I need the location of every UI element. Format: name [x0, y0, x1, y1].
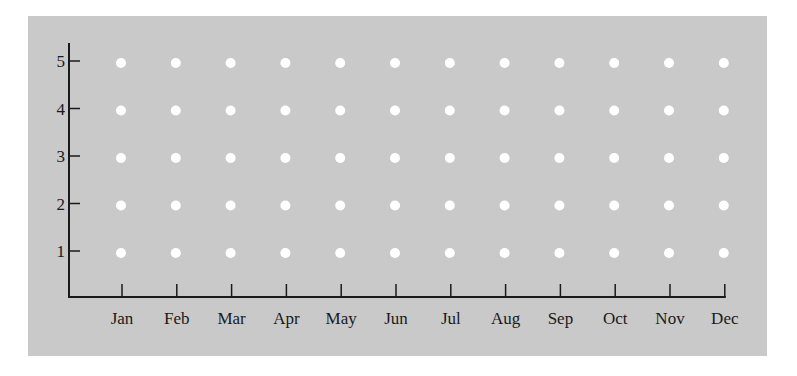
data-point — [280, 106, 290, 116]
y-tick-label: 5 — [57, 52, 66, 71]
data-point — [171, 201, 181, 211]
data-point — [719, 201, 729, 211]
x-tick-label: Mar — [217, 309, 246, 328]
x-tick-label: Feb — [164, 309, 190, 328]
chart-panel: 12345JanFebMarAprMayJunJulAugSepOctNovDe… — [28, 16, 767, 356]
data-point — [390, 201, 400, 211]
data-point — [390, 248, 400, 258]
y-tick-label: 1 — [57, 242, 66, 261]
data-point — [280, 153, 290, 163]
x-tick-label: May — [326, 309, 358, 328]
data-point — [664, 201, 674, 211]
x-tick-label: Dec — [711, 309, 739, 328]
data-point — [226, 58, 236, 68]
data-point — [664, 58, 674, 68]
data-point — [554, 153, 564, 163]
data-point — [445, 153, 455, 163]
data-point — [445, 58, 455, 68]
data-point — [719, 106, 729, 116]
data-point — [609, 201, 619, 211]
data-point — [280, 201, 290, 211]
data-point — [116, 58, 126, 68]
data-point — [445, 248, 455, 258]
data-point — [280, 58, 290, 68]
x-tick-label: Sep — [548, 309, 574, 328]
x-tick-label: Oct — [603, 309, 628, 328]
data-point — [719, 58, 729, 68]
data-point — [664, 106, 674, 116]
data-point — [609, 248, 619, 258]
x-tick-label: Aug — [491, 309, 521, 328]
x-tick-label: Apr — [273, 309, 300, 328]
data-point — [554, 58, 564, 68]
data-point — [500, 58, 510, 68]
data-point — [554, 106, 564, 116]
data-point — [226, 153, 236, 163]
data-point — [116, 153, 126, 163]
data-point — [335, 106, 345, 116]
data-point — [171, 248, 181, 258]
data-point — [664, 153, 674, 163]
data-point — [554, 201, 564, 211]
y-tick-label: 2 — [57, 195, 66, 214]
data-point — [116, 201, 126, 211]
data-point — [335, 153, 345, 163]
data-point — [280, 248, 290, 258]
data-point — [171, 58, 181, 68]
data-point — [390, 58, 400, 68]
data-point — [226, 106, 236, 116]
data-point — [609, 106, 619, 116]
data-point — [445, 106, 455, 116]
data-point — [226, 201, 236, 211]
data-point — [445, 201, 455, 211]
data-point — [226, 248, 236, 258]
data-point — [609, 153, 619, 163]
data-point — [390, 153, 400, 163]
data-point — [664, 248, 674, 258]
data-point — [116, 248, 126, 258]
dot-grid-chart: 12345JanFebMarAprMayJunJulAugSepOctNovDe… — [28, 16, 767, 356]
data-point — [171, 106, 181, 116]
data-point — [500, 106, 510, 116]
data-point — [554, 248, 564, 258]
data-point — [390, 106, 400, 116]
x-tick-label: Jul — [441, 309, 461, 328]
x-tick-label: Jun — [384, 309, 408, 328]
y-tick-label: 3 — [57, 147, 66, 166]
data-point — [500, 201, 510, 211]
y-tick-label: 4 — [57, 100, 66, 119]
data-point — [609, 58, 619, 68]
data-point — [719, 248, 729, 258]
data-point — [500, 248, 510, 258]
data-point — [335, 248, 345, 258]
data-point — [116, 106, 126, 116]
data-point — [335, 58, 345, 68]
data-point — [171, 153, 181, 163]
x-tick-label: Jan — [111, 309, 134, 328]
x-tick-label: Nov — [655, 309, 685, 328]
data-point — [719, 153, 729, 163]
data-point — [335, 201, 345, 211]
data-point — [500, 153, 510, 163]
